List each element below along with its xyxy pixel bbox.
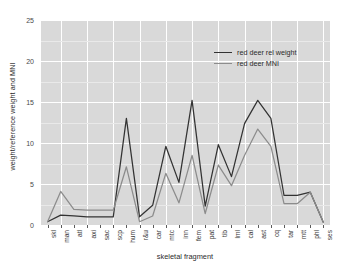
x-tick-label: ses bbox=[326, 230, 333, 240]
x-tick-label: mtt bbox=[300, 230, 307, 239]
x-tickmark bbox=[323, 225, 324, 228]
x-tick-label: tib bbox=[221, 230, 228, 237]
legend-label: red deer rel weight bbox=[237, 48, 297, 57]
x-tick-label: scp bbox=[116, 230, 123, 240]
x-tickmark bbox=[271, 225, 272, 228]
x-tickmark bbox=[48, 225, 49, 228]
x-tick-label: cq bbox=[273, 230, 280, 237]
line-chart: weight/reference weight and MNI 05101520… bbox=[0, 0, 352, 271]
y-tick-label: 0 bbox=[30, 222, 34, 229]
legend-entry-rel-weight: red deer rel weight bbox=[214, 47, 297, 57]
x-tickmark bbox=[205, 225, 206, 228]
y-tick-label: 10 bbox=[26, 140, 34, 147]
x-tick-label: man bbox=[63, 230, 70, 243]
legend-line-swatch-icon bbox=[214, 52, 232, 53]
x-tickmark bbox=[113, 225, 114, 228]
x-tick-label: hum bbox=[129, 230, 136, 243]
x-axis-title: skeletal fragment bbox=[40, 252, 330, 261]
series-line bbox=[48, 100, 324, 222]
x-tick-label: fem bbox=[195, 230, 202, 241]
x-tickmark bbox=[218, 225, 219, 228]
y-axis-ticks: 0510152025 bbox=[0, 0, 39, 271]
x-tick-label: tar bbox=[287, 230, 294, 238]
x-tick-label: skl bbox=[50, 230, 57, 238]
x-tickmark bbox=[297, 225, 298, 228]
x-tick-label: atl bbox=[76, 230, 83, 237]
x-tickmark bbox=[284, 225, 285, 228]
x-tickmark bbox=[61, 225, 62, 228]
x-tickmark bbox=[100, 225, 101, 228]
x-tickmark bbox=[192, 225, 193, 228]
chart-legend: red deer rel weight red deer MNI bbox=[214, 47, 297, 69]
x-tick-label: inn bbox=[182, 230, 189, 239]
legend-line-swatch-icon bbox=[214, 63, 232, 64]
x-tick-label: pat bbox=[208, 230, 215, 239]
x-tickmark bbox=[74, 225, 75, 228]
x-tick-label: car bbox=[155, 230, 162, 239]
y-tick-label: 25 bbox=[26, 17, 34, 24]
x-tick-label: axi bbox=[90, 230, 97, 238]
x-tickmark bbox=[310, 225, 311, 228]
legend-entry-mni: red deer MNI bbox=[214, 58, 297, 68]
x-tickmark bbox=[140, 225, 141, 228]
y-tick-label: 5 bbox=[30, 181, 34, 188]
x-tickmark bbox=[231, 225, 232, 228]
y-tick-label: 20 bbox=[26, 58, 34, 65]
x-axis-ticks: sklmanatlaxisacscphumr&ucarmtcinnfempatt… bbox=[41, 225, 330, 255]
x-tickmark bbox=[153, 225, 154, 228]
x-tick-label: cal bbox=[247, 230, 254, 238]
x-tickmark bbox=[166, 225, 167, 228]
y-tick-label: 15 bbox=[26, 99, 34, 106]
x-tick-label: lml bbox=[234, 230, 241, 238]
x-tickmark bbox=[87, 225, 88, 228]
x-tick-label: mtc bbox=[168, 230, 175, 241]
x-tickmark bbox=[258, 225, 259, 228]
x-tick-label: sac bbox=[103, 230, 110, 240]
x-tick-label: ast bbox=[260, 230, 267, 239]
x-tickmark bbox=[126, 225, 127, 228]
x-tick-label: r&u bbox=[142, 230, 149, 240]
x-tickmark bbox=[179, 225, 180, 228]
x-tick-label: phl bbox=[313, 230, 320, 239]
x-tickmark bbox=[245, 225, 246, 228]
legend-label: red deer MNI bbox=[237, 59, 279, 68]
